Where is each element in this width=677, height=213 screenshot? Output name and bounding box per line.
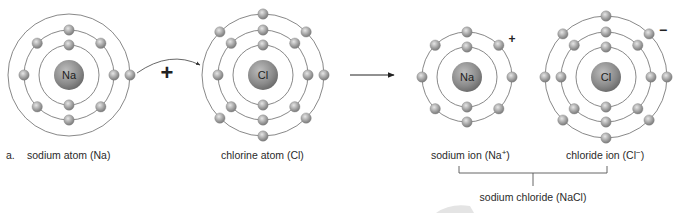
electron	[556, 72, 566, 82]
electron	[558, 115, 568, 125]
electron	[462, 42, 472, 52]
sodium-atom-caption: sodium atom (Na)	[27, 149, 110, 161]
electron	[601, 133, 611, 143]
plus-sign: +	[161, 60, 174, 85]
nucleus-symbol: Na	[460, 71, 475, 83]
electron	[633, 40, 643, 50]
electron	[494, 40, 504, 50]
electron	[213, 70, 223, 80]
electron	[303, 70, 313, 80]
electron	[64, 115, 74, 125]
electron	[417, 72, 427, 82]
electron	[646, 72, 656, 82]
nucleus-symbol: Cl	[601, 71, 611, 83]
chlorine-atom: Cl	[202, 9, 329, 141]
nucleus-symbol: Na	[62, 69, 77, 81]
electron	[569, 104, 579, 114]
chlorine-atom-caption: chlorine atom (Cl)	[221, 149, 304, 161]
chloride-ion: Cl	[540, 11, 672, 143]
chloride-ion-charge: −	[659, 22, 667, 38]
decorative-blob	[436, 205, 474, 213]
chloride-ion-caption-text: chloride ion (Cl	[566, 149, 636, 161]
electron	[601, 117, 611, 127]
electron	[258, 100, 268, 110]
electron	[540, 72, 550, 82]
electron	[96, 38, 106, 48]
nucleus-symbol: Cl	[258, 69, 268, 81]
electron	[125, 70, 135, 80]
electron	[633, 104, 643, 114]
electron	[19, 70, 29, 80]
product-bracket	[459, 166, 607, 173]
electron	[494, 104, 504, 114]
sodium-atom: Na	[8, 14, 135, 136]
electron	[462, 117, 472, 127]
electron	[601, 11, 611, 21]
electron	[662, 72, 672, 82]
electron	[32, 102, 42, 112]
chloride-ion-caption: chloride ion (Cl−)	[566, 148, 644, 161]
sodium-ion-caption-text: sodium ion (Na	[431, 149, 502, 161]
electron	[215, 113, 225, 123]
electron	[290, 38, 300, 48]
electron	[226, 102, 236, 112]
electron	[644, 115, 654, 125]
electron	[64, 40, 74, 50]
electron	[215, 27, 225, 37]
sodium-ion-caption-end: )	[506, 149, 510, 161]
electron	[290, 102, 300, 112]
electron	[601, 27, 611, 37]
chloride-ion-caption-end: )	[641, 149, 645, 161]
electron	[430, 104, 440, 114]
electron	[319, 70, 329, 80]
electron	[258, 40, 268, 50]
ionic-bond-diagram: Na Cl Na Cl + + − a. sodium atom (Na) ch…	[0, 0, 677, 213]
electron	[430, 40, 440, 50]
electron	[301, 113, 311, 123]
electron	[258, 131, 268, 141]
electron	[462, 102, 472, 112]
electron	[32, 38, 42, 48]
electron	[644, 29, 654, 39]
part-label: a.	[6, 149, 15, 161]
sodium-ion: Na	[417, 27, 517, 127]
electron	[96, 102, 106, 112]
sodium-ion-charge: +	[508, 32, 515, 46]
electron	[109, 70, 119, 80]
electron	[462, 27, 472, 37]
product-caption: sodium chloride (NaCl)	[480, 191, 587, 203]
electron	[226, 38, 236, 48]
electron	[569, 40, 579, 50]
electron	[64, 100, 74, 110]
electron	[558, 29, 568, 39]
electron	[601, 102, 611, 112]
electron	[258, 115, 268, 125]
electron	[258, 25, 268, 35]
electron	[507, 72, 517, 82]
electron	[601, 42, 611, 52]
electron	[258, 9, 268, 19]
electron	[64, 25, 74, 35]
electron	[301, 27, 311, 37]
sodium-ion-caption: sodium ion (Na+)	[431, 148, 510, 161]
